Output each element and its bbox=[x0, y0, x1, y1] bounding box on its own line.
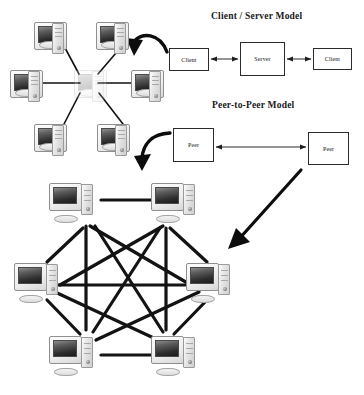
monitor-base bbox=[19, 295, 43, 303]
tower-icon bbox=[28, 71, 40, 102]
monitor-base bbox=[156, 215, 180, 223]
computer-icon[interactable] bbox=[49, 183, 93, 223]
monitor-base bbox=[191, 295, 215, 303]
tower-icon bbox=[81, 184, 93, 215]
screen-icon bbox=[190, 267, 214, 285]
tower-icon bbox=[149, 71, 161, 102]
mesh-link-tl-l bbox=[47, 228, 83, 262]
tower-icon bbox=[46, 264, 58, 295]
computer-icon[interactable] bbox=[186, 263, 230, 303]
monitor-icon bbox=[151, 183, 184, 211]
curved-arrow-client-to-star bbox=[126, 36, 167, 56]
tower-icon bbox=[52, 23, 64, 54]
tower-icon bbox=[183, 184, 195, 215]
monitor-base bbox=[54, 215, 78, 223]
mesh-link-l-bl bbox=[47, 300, 80, 334]
screen-icon bbox=[155, 187, 179, 205]
computer-icon[interactable] bbox=[49, 336, 93, 376]
computer-icon[interactable] bbox=[14, 263, 58, 303]
curved-arrow-peer-to-mesh bbox=[134, 133, 170, 171]
screen-icon bbox=[53, 187, 77, 205]
computer-icon[interactable] bbox=[131, 70, 161, 97]
computer-icon[interactable] bbox=[34, 22, 64, 49]
computer-icon[interactable] bbox=[74, 70, 104, 97]
monitor-base bbox=[54, 368, 78, 376]
mesh-link-r-bl bbox=[96, 292, 199, 340]
monitor-base bbox=[156, 368, 180, 376]
monitor-icon bbox=[14, 263, 47, 291]
tower-icon bbox=[52, 125, 64, 156]
monitor-icon bbox=[49, 336, 82, 364]
tower-icon bbox=[183, 337, 195, 368]
monitor-icon bbox=[186, 263, 219, 291]
screen-icon bbox=[53, 340, 77, 358]
tower-icon bbox=[114, 23, 126, 54]
tower-icon bbox=[218, 264, 230, 295]
computer-icon[interactable] bbox=[97, 124, 127, 151]
diagonal-arrow-peer-to-mesh bbox=[228, 170, 301, 249]
screen-icon bbox=[18, 267, 42, 285]
tower-icon bbox=[81, 337, 93, 368]
tower-icon bbox=[92, 71, 104, 102]
computer-icon[interactable] bbox=[10, 70, 40, 97]
diagram-canvas: Client / Server Model Peer-to-Peer Model… bbox=[0, 0, 364, 395]
computer-icon[interactable] bbox=[96, 22, 126, 49]
mesh-link-r-br bbox=[174, 300, 207, 334]
monitor-icon bbox=[151, 336, 184, 364]
computer-icon[interactable] bbox=[34, 124, 64, 151]
tower-icon bbox=[115, 125, 127, 156]
screen-icon bbox=[155, 340, 179, 358]
computer-icon[interactable] bbox=[151, 183, 195, 223]
monitor-icon bbox=[49, 183, 82, 211]
mesh-link-tr-r bbox=[170, 228, 207, 262]
mesh-links bbox=[47, 200, 207, 355]
computer-icon[interactable] bbox=[151, 336, 195, 376]
